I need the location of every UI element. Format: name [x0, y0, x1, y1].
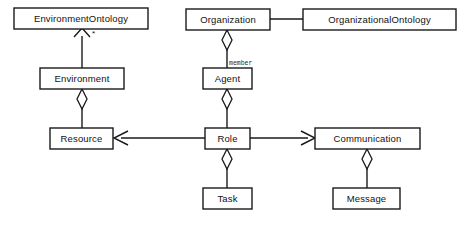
- class-label-organization: Organization: [200, 14, 256, 25]
- edge-role-uses-communication: [250, 131, 315, 145]
- diagram-canvas: Resource (directed association, open arr…: [0, 0, 465, 226]
- edge-environment-to-environmentontology: [74, 28, 90, 68]
- class-node-role[interactable]: Role: [205, 128, 250, 149]
- uml-class-diagram: Resource (directed association, open arr…: [0, 0, 465, 226]
- class-node-agent[interactable]: Agent: [203, 68, 252, 89]
- edge-communication-aggregates-message: [362, 149, 372, 188]
- multiplicity-star-environment-ontology: *: [92, 29, 95, 38]
- class-label-environment-ontology: EnvironmentOntology: [34, 13, 128, 24]
- association-role-label-member: member: [229, 60, 253, 67]
- class-node-task[interactable]: Task: [203, 188, 252, 209]
- class-label-communication: Communication: [334, 133, 402, 144]
- class-node-communication[interactable]: Communication: [315, 128, 420, 149]
- class-label-environment: Environment: [55, 73, 110, 84]
- edge-role-aggregates-task: [222, 149, 232, 188]
- class-node-message[interactable]: Message: [333, 188, 400, 209]
- edge-role-uses-resource: [114, 131, 205, 145]
- class-label-message: Message: [347, 193, 387, 204]
- class-node-environment[interactable]: Environment: [40, 68, 124, 89]
- class-node-environment-ontology[interactable]: EnvironmentOntology: [14, 8, 148, 29]
- edge-environment-aggregates-resource: [77, 89, 87, 128]
- edge-agent-aggregates-role: [222, 89, 232, 128]
- class-node-resource[interactable]: Resource: [50, 128, 113, 149]
- class-label-organizational-ontology: OrganizationalOntology: [328, 14, 431, 25]
- class-node-organization[interactable]: Organization: [186, 9, 270, 30]
- class-label-resource: Resource: [61, 133, 103, 144]
- class-label-agent: Agent: [215, 73, 241, 84]
- class-node-organizational-ontology[interactable]: OrganizationalOntology: [303, 9, 456, 30]
- class-label-task: Task: [217, 193, 237, 204]
- class-label-role: Role: [217, 133, 237, 144]
